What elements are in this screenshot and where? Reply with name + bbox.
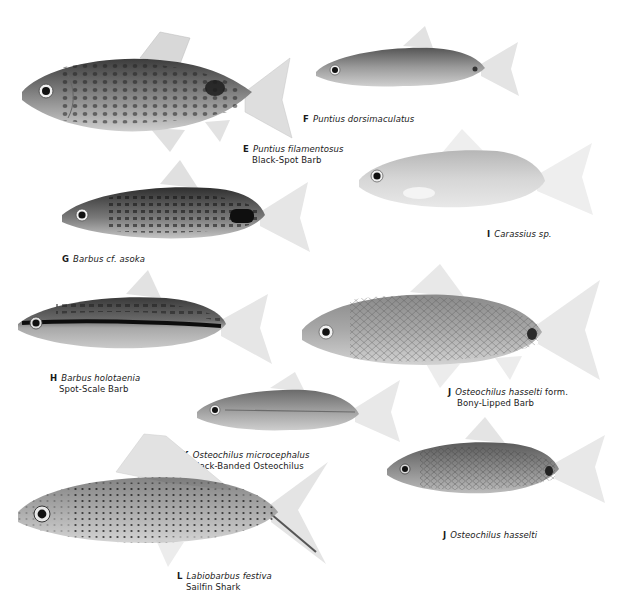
scientific-name: Osteochilus hasselti: [450, 530, 537, 540]
fish-illustration-barbus-holotaenia: [16, 268, 276, 368]
fish-illustration-osteochilus-hasselti: [385, 415, 610, 515]
scientific-name: Puntius dorsimaculatus: [313, 114, 414, 124]
common-name: Bony-Lipped Barb: [448, 398, 568, 409]
fish-illustration-carassius: [357, 125, 597, 230]
scientific-name: Puntius filamentosus: [253, 144, 344, 154]
caption-l: LLabiobarbus festiva Sailfin Shark: [177, 571, 272, 593]
fish-illustration-barbus-asoka: [60, 160, 315, 260]
caption-i: ICarassius sp.: [487, 229, 552, 240]
scientific-name: Labiobarbus festiva: [187, 571, 272, 581]
caption-f: FPuntius dorsimaculatus: [303, 114, 414, 125]
scientific-name: Barbus cf. asoka: [73, 254, 145, 264]
scientific-name: Carassius sp.: [494, 229, 551, 239]
caption-letter: F: [303, 114, 309, 124]
caption-h: HBarbus holotaenia Spot-Scale Barb: [50, 373, 140, 395]
caption-j: JOsteochilus hasselti: [443, 530, 537, 541]
caption-g: GBarbus cf. asoka: [62, 254, 145, 265]
caption-letter: L: [177, 571, 183, 581]
common-name: Sailfin Shark: [177, 582, 272, 593]
common-name: Spot-Scale Barb: [50, 384, 140, 395]
scientific-name: Osteochilus hasselti: [455, 387, 542, 397]
caption-letter: J: [448, 387, 451, 397]
caption-j-form: JOsteochilus hasselti form. Bony-Lipped …: [448, 387, 568, 409]
caption-letter: G: [62, 254, 69, 264]
caption-letter: E: [243, 144, 249, 154]
caption-letter: J: [443, 530, 446, 540]
fish-plate: EPuntius filamentosus Black-Spot Barb FP…: [0, 0, 626, 615]
fish-illustration-puntius-filamentosus: [20, 30, 300, 160]
scientific-name: Barbus holotaenia: [61, 373, 140, 383]
scientific-suffix: form.: [542, 387, 568, 397]
caption-letter: H: [50, 373, 57, 383]
fish-illustration-puntius-dorsimaculatus: [313, 24, 523, 104]
fish-illustration-labiobarbus-festiva: [16, 432, 336, 572]
caption-letter: I: [487, 229, 490, 239]
